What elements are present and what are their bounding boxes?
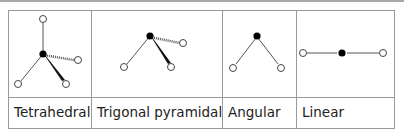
label-angular: Angular	[223, 97, 296, 128]
label-linear: Linear	[297, 97, 394, 128]
angular-diagram	[230, 32, 285, 71]
trigonal-pyramidal-diagram	[121, 32, 187, 70]
label-tetrahedral: Tetrahedral	[9, 97, 91, 128]
label-trigonal-pyramidal: Trigonal pyramidal	[92, 97, 222, 128]
linear-diagram	[300, 49, 387, 56]
tetrahedral-diagram	[15, 16, 82, 88]
